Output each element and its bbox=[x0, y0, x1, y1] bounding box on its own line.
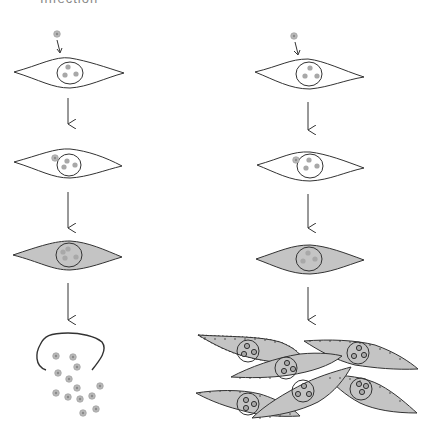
virus-particle-icon bbox=[52, 155, 59, 162]
right-stage-attachment bbox=[255, 33, 364, 89]
virus-particle-icon bbox=[291, 33, 298, 40]
ruptured-membrane bbox=[37, 333, 104, 370]
left-stage-entry bbox=[14, 149, 122, 178]
host-cell bbox=[255, 59, 364, 89]
infected-cell bbox=[256, 245, 364, 274]
infected-cell bbox=[13, 241, 122, 270]
left-stage-attachment bbox=[14, 31, 124, 88]
released-virions bbox=[53, 353, 104, 417]
diagram-canvas bbox=[0, 0, 429, 428]
virus-particle-icon bbox=[54, 31, 61, 38]
left-pathway bbox=[13, 31, 124, 417]
host-cell bbox=[14, 149, 122, 178]
host-cell bbox=[257, 152, 364, 181]
right-stage-infected bbox=[256, 245, 364, 274]
virus-particle-icon bbox=[293, 157, 300, 164]
right-pathway bbox=[196, 33, 418, 419]
right-stage-transformed bbox=[196, 335, 418, 419]
right-stage-entry bbox=[257, 152, 364, 181]
left-stage-lysis bbox=[37, 333, 104, 416]
left-stage-infected bbox=[13, 241, 122, 270]
